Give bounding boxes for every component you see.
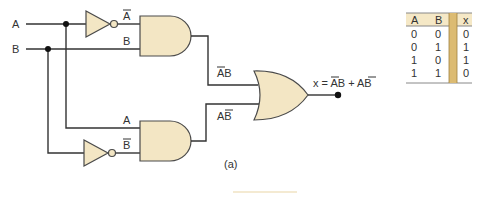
figure-caption: (a) bbox=[224, 158, 237, 170]
not-gate-b bbox=[84, 140, 108, 166]
truth-table-cell: 0 bbox=[463, 67, 469, 79]
input-a-label: A bbox=[12, 18, 20, 30]
and-gate-top bbox=[140, 16, 191, 56]
and-gate-bottom bbox=[140, 121, 191, 161]
truth-table-cell: 0 bbox=[435, 54, 441, 66]
signal-b-top-label: B bbox=[123, 35, 130, 47]
truth-table-cell: 0 bbox=[435, 28, 441, 40]
truth-table-cell: 0 bbox=[411, 41, 417, 53]
truth-table-header-b: B bbox=[435, 14, 442, 26]
truth-table: A B x 0 0 0 0 1 1 1 0 1 1 1 0 bbox=[406, 13, 472, 83]
logic-circuit-diagram: A B A B AB B A AB x = AB + AB (a) bbox=[0, 0, 484, 197]
truth-table-header-a: A bbox=[411, 14, 419, 26]
not-gate-a bbox=[86, 11, 110, 37]
truth-table-divider bbox=[449, 13, 457, 83]
not-gate-a-bubble bbox=[111, 21, 118, 28]
truth-table-cell: 1 bbox=[435, 67, 441, 79]
truth-table-header-x: x bbox=[463, 14, 469, 26]
or-gate bbox=[254, 71, 308, 120]
truth-table-cell: 1 bbox=[463, 54, 469, 66]
truth-table-cell: 1 bbox=[463, 41, 469, 53]
output-expression: x = AB + AB bbox=[313, 77, 372, 89]
junction-b bbox=[45, 46, 51, 52]
signal-term2-label: AB bbox=[217, 110, 232, 122]
truth-table-cell: 0 bbox=[463, 28, 469, 40]
input-b-label: B bbox=[12, 43, 19, 55]
output-terminal bbox=[335, 92, 341, 98]
signal-term1-label: AB bbox=[217, 67, 232, 79]
not-gate-b-bubble bbox=[109, 150, 116, 157]
truth-table-cell: 1 bbox=[411, 54, 417, 66]
signal-not-b-label: B bbox=[123, 139, 130, 151]
junction-a bbox=[63, 21, 69, 27]
truth-table-cell: 1 bbox=[411, 67, 417, 79]
signal-not-a-label: A bbox=[123, 10, 131, 22]
truth-table-cell: 1 bbox=[435, 41, 441, 53]
truth-table-cell: 0 bbox=[411, 28, 417, 40]
signal-a-bottom-label: A bbox=[123, 114, 131, 126]
